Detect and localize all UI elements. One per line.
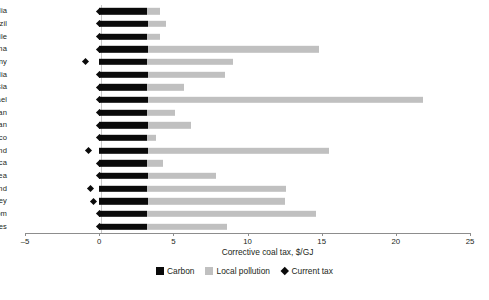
chart-row: Chile: [25, 30, 470, 43]
bar-local-pollution: [148, 21, 166, 27]
bar-carbon: [99, 147, 148, 153]
current-tax-marker: [82, 58, 89, 65]
bar-local-pollution: [147, 185, 286, 191]
category-label-turkey: Turkey: [0, 197, 7, 205]
bar-local-pollution: [148, 71, 225, 77]
bar-local-pollution: [147, 8, 160, 14]
x-tick-label: 15: [317, 237, 326, 246]
legend-item-local-pollution: Local pollution: [205, 266, 270, 276]
plot-area: AustraliaBrazilChileChinaGermanyIndiaInd…: [25, 5, 470, 233]
legend-label: Current tax: [292, 266, 333, 276]
bar-carbon: [99, 84, 146, 90]
bar-carbon: [99, 198, 148, 204]
category-label-united-kingdom: United Kingdom: [0, 210, 7, 218]
chart-row: Australia: [25, 5, 470, 18]
chart-row: Kazakhstan: [25, 119, 470, 132]
current-tax-marker: [87, 185, 94, 192]
x-tick-label: –5: [21, 237, 30, 246]
bar-local-pollution: [148, 198, 284, 204]
legend-label: Local pollution: [216, 266, 270, 276]
category-label-indonesia: Indonesia: [0, 83, 7, 91]
x-tick: [25, 233, 26, 236]
category-label-australia: Australia: [0, 7, 7, 15]
diamond-icon: [281, 267, 289, 275]
bar-local-pollution: [147, 59, 233, 65]
bar-carbon: [99, 46, 148, 52]
bar-local-pollution: [148, 46, 319, 52]
chart-row: South Korea: [25, 170, 470, 183]
bar-local-pollution: [147, 33, 160, 39]
bar-local-pollution: [147, 109, 175, 115]
x-tick-label: 0: [97, 237, 101, 246]
bar-local-pollution: [147, 135, 156, 141]
x-axis-title: Corrective coal tax, $/GJ: [0, 247, 489, 257]
category-label-mexico: Mexico: [0, 134, 7, 142]
chart-row: Brazil: [25, 18, 470, 31]
category-label-brazil: Brazil: [0, 20, 7, 28]
chart-row: Turkey: [25, 195, 470, 208]
chart-row: United States: [25, 220, 470, 233]
bar-carbon: [99, 160, 146, 166]
x-tick-label: 5: [171, 237, 175, 246]
category-label-chile: Chile: [0, 33, 7, 41]
category-label-kazakhstan: Kazakhstan: [0, 121, 7, 129]
chart-row: United Kingdom: [25, 208, 470, 221]
chart-row: China: [25, 43, 470, 56]
x-tick-label: 25: [466, 237, 475, 246]
x-tick: [322, 233, 323, 236]
bar-carbon: [99, 185, 146, 191]
square-swatch-icon: [156, 267, 164, 275]
x-tick: [99, 233, 100, 236]
legend-item-carbon: Carbon: [156, 266, 194, 276]
x-tick: [248, 233, 249, 236]
chart-row: Israel: [25, 94, 470, 107]
x-tick-label: 20: [391, 237, 400, 246]
chart-row: Japan: [25, 106, 470, 119]
current-tax-marker: [90, 198, 97, 205]
category-label-israel: Israel: [0, 96, 7, 104]
bar-carbon: [99, 109, 146, 115]
bar-carbon: [99, 211, 146, 217]
legend-item-current-tax: Current tax: [281, 266, 333, 276]
legend-label: Carbon: [167, 266, 194, 276]
bar-carbon: [99, 97, 148, 103]
chart-row: Thailand: [25, 182, 470, 195]
category-label-china: China: [0, 45, 7, 53]
chart-row: Germany: [25, 56, 470, 69]
bar-carbon: [99, 21, 148, 27]
category-label-south-korea: South Korea: [0, 172, 7, 180]
chart-row: South Africa: [25, 157, 470, 170]
category-label-japan: Japan: [0, 109, 7, 117]
bar-local-pollution: [148, 122, 191, 128]
bar-local-pollution: [147, 84, 184, 90]
bar-carbon: [99, 33, 146, 39]
bar-carbon: [99, 59, 146, 65]
bar-carbon: [99, 173, 148, 179]
bar-local-pollution: [147, 211, 316, 217]
bar-local-pollution: [148, 97, 422, 103]
bar-carbon: [99, 71, 148, 77]
chart-row: Mexico: [25, 132, 470, 145]
current-tax-marker: [84, 147, 91, 154]
square-swatch-icon: [205, 267, 213, 275]
x-tick: [396, 233, 397, 236]
bar-local-pollution: [148, 147, 329, 153]
category-label-united-states: United States: [0, 223, 7, 231]
bar-carbon: [99, 135, 146, 141]
corrective-coal-tax-chart: AustraliaBrazilChileChinaGermanyIndiaInd…: [0, 0, 489, 300]
category-label-india: India: [0, 71, 7, 79]
x-tick: [470, 233, 471, 236]
category-label-thailand: Thailand: [0, 185, 7, 193]
bar-carbon: [99, 223, 146, 229]
bar-carbon: [99, 8, 146, 14]
bar-carbon: [99, 122, 148, 128]
bar-local-pollution: [148, 173, 216, 179]
bar-local-pollution: [147, 223, 227, 229]
chart-row: Indonesia: [25, 81, 470, 94]
bar-local-pollution: [147, 160, 163, 166]
chart-row: Poland: [25, 144, 470, 157]
chart-row: India: [25, 68, 470, 81]
chart-legend: CarbonLocal pollutionCurrent tax: [0, 266, 489, 276]
category-label-poland: Poland: [0, 147, 7, 155]
category-label-south-africa: South Africa: [0, 159, 7, 167]
